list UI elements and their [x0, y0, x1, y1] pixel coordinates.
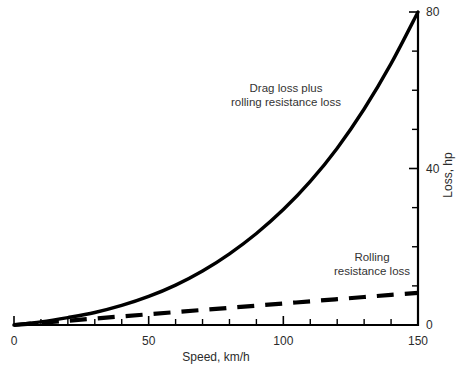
- x-tick-label-0: 0: [11, 334, 18, 348]
- x-tick-label-50: 50: [142, 334, 156, 348]
- annotation-drag-plus-rolling-line-2: rolling resistance loss: [231, 96, 341, 108]
- y-tick-label-80: 80: [426, 5, 440, 19]
- y-axis-tick-labels: 04080: [426, 5, 440, 332]
- axes-group: [14, 12, 418, 325]
- annotation-rolling-only: Rolling resistance loss: [334, 251, 410, 277]
- annotation-drag-plus-rolling-line-1: Drag loss plus: [250, 82, 323, 94]
- chart-container: 050100150 04080 Speed, km/h Loss, hp Dra…: [0, 0, 468, 373]
- y-axis-title: Loss, hp: [441, 152, 455, 198]
- y-tick-label-40: 40: [426, 162, 440, 176]
- series-drag-plus-rolling: [14, 12, 418, 325]
- annotation-drag-plus-rolling: Drag loss plus rolling resistance loss: [231, 82, 341, 108]
- x-axis-title: Speed, km/h: [182, 350, 249, 364]
- x-tick-label-100: 100: [273, 334, 293, 348]
- axis-lines: [14, 12, 418, 325]
- x-axis-tick-labels: 050100150: [11, 334, 429, 348]
- loss-vs-speed-chart: 050100150 04080 Speed, km/h Loss, hp Dra…: [0, 0, 468, 373]
- y-tick-label-0: 0: [426, 318, 433, 332]
- x-tick-label-150: 150: [408, 334, 428, 348]
- series-rolling-resistance: [14, 293, 418, 325]
- annotation-rolling-only-line-2: resistance loss: [334, 265, 410, 277]
- annotation-rolling-only-line-1: Rolling: [354, 251, 389, 263]
